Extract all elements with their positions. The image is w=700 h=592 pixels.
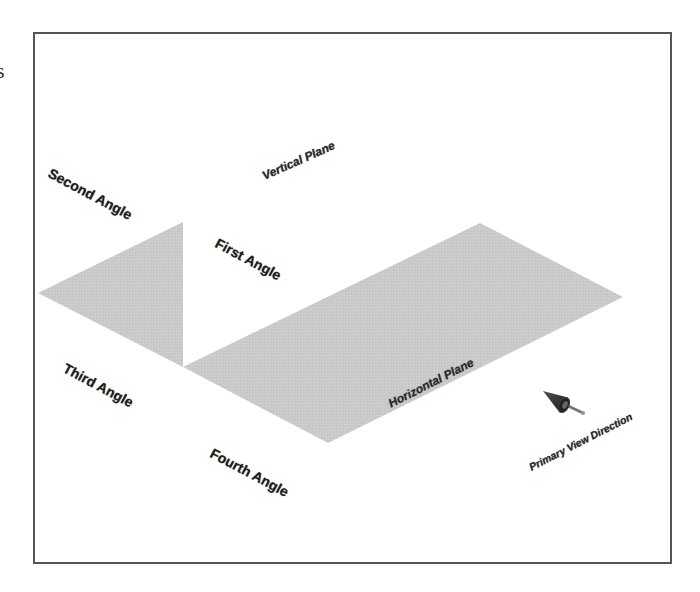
projection-planes-diagram <box>0 0 700 592</box>
view-direction-arrow-icon <box>543 391 585 415</box>
horizontal-plane-back-half <box>38 222 183 367</box>
